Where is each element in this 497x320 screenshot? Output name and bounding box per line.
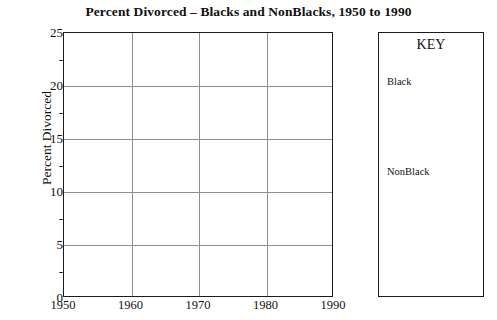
gridline-vertical (199, 33, 200, 296)
chart-page: Percent Divorced – Blacks and NonBlacks,… (0, 0, 497, 320)
chart-title: Percent Divorced – Blacks and NonBlacks,… (0, 4, 497, 20)
y-axis: 0510152025----- (14, 32, 63, 297)
y-tick-label: 15 (19, 132, 63, 145)
gridline-vertical (267, 33, 268, 296)
x-tick-label: 1960 (101, 299, 161, 312)
x-tick-label: 1950 (33, 299, 93, 312)
gridline-horizontal (64, 192, 332, 193)
y-tick-label: 10 (19, 185, 63, 198)
x-tick-label: 1990 (303, 299, 363, 312)
y-tick-label: 20 (19, 79, 63, 92)
x-axis: 19501960197019801990 (63, 298, 333, 320)
legend-entry-nonblack: NonBlack (387, 167, 430, 178)
y-minor-tick-label: - (19, 264, 63, 277)
y-minor-tick-label: - (19, 158, 63, 171)
legend-key-box: KEY BlackNonBlack (378, 32, 484, 297)
x-tick-label: 1980 (236, 299, 296, 312)
gridline-vertical (132, 33, 133, 296)
y-tick-label: 25 (19, 26, 63, 39)
y-minor-tick-label: - (19, 211, 63, 224)
y-minor-tick-label: - (19, 105, 63, 118)
gridline-horizontal (64, 86, 332, 87)
x-tick-label: 1970 (168, 299, 228, 312)
gridline-horizontal (64, 245, 332, 246)
plot-frame (63, 32, 333, 297)
gridline-horizontal (64, 139, 332, 140)
y-minor-tick-label: - (19, 52, 63, 65)
legend-title: KEY (379, 38, 483, 52)
legend-entry-black: Black (387, 77, 412, 88)
plot-area (64, 33, 332, 296)
y-tick-label: 5 (19, 238, 63, 251)
